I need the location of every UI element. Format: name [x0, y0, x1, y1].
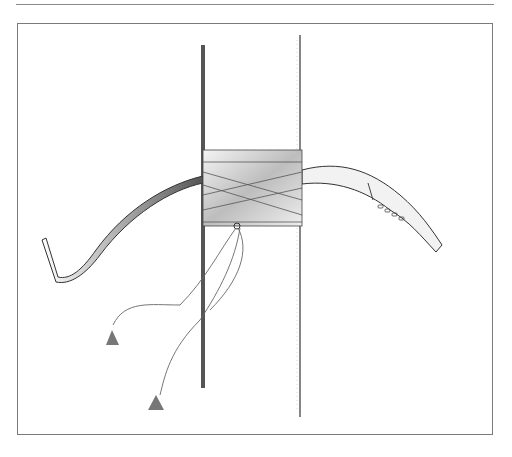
bow-limb-left [42, 176, 203, 283]
tassel-upper [106, 330, 119, 345]
bow-illustration [0, 0, 512, 457]
tassel-lower [148, 395, 164, 410]
ribbon-wrap [203, 150, 302, 229]
bow-limb-right [302, 166, 442, 252]
hanging-ribbons [113, 228, 243, 395]
